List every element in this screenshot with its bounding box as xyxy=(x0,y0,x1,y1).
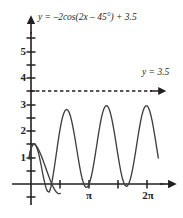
y-tick-label-5: 5 xyxy=(14,46,26,57)
plot-canvas xyxy=(0,0,183,218)
y-tick-label-3: 3 xyxy=(14,99,26,110)
y-tick-label-1: 1 xyxy=(14,152,26,163)
x-tick-label-pi: π xyxy=(82,190,96,201)
y-tick-label-4: 4 xyxy=(14,72,26,83)
trig-graph-figure: 5 4 3 2 1 π 2π y = –2cos(2x – 45°) + 3.5… xyxy=(0,0,183,218)
horizontal-line-annotation: y = 3.5 xyxy=(142,68,169,78)
equation-annotation: y = –2cos(2x – 45°) + 3.5 xyxy=(38,13,137,23)
y-tick-label-2: 2 xyxy=(14,125,26,136)
x-tick-label-2pi: 2π xyxy=(138,190,158,201)
cosine-curve xyxy=(29,106,158,194)
